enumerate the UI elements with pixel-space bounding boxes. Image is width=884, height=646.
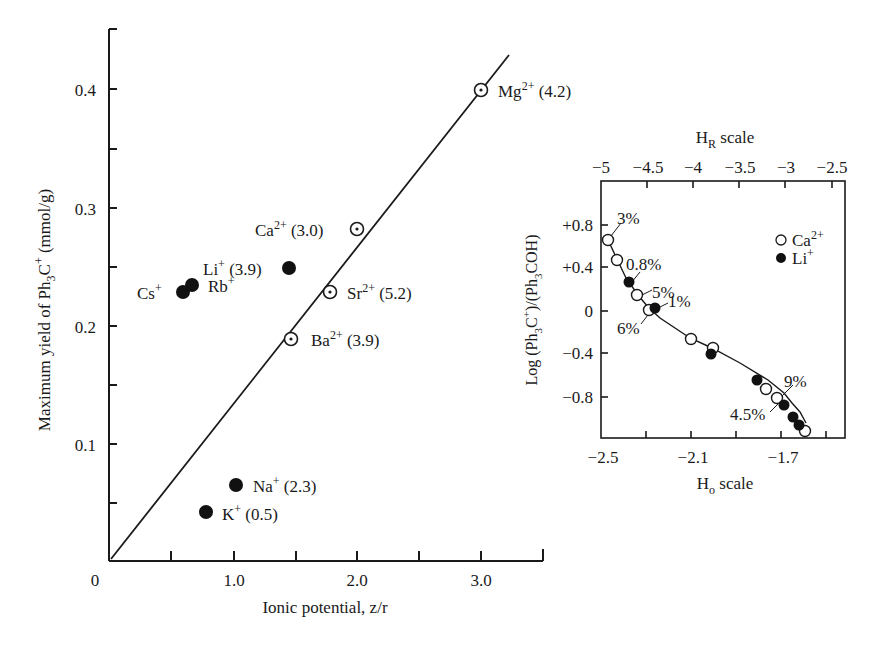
- point-ba: [285, 333, 298, 346]
- main-x-tick-label: 1.0: [223, 571, 244, 590]
- label-cs: Cs+: [137, 281, 162, 303]
- annotation-6pct: 6%: [617, 319, 640, 338]
- inset-y-tick-label: 0: [585, 302, 594, 321]
- inset-top-tick-label: −4: [684, 158, 703, 177]
- annotation-0-8pct: 0.8%: [626, 255, 661, 274]
- annotation-3pct: 3%: [617, 209, 640, 228]
- alkaline-earth-points: [285, 84, 488, 346]
- main-y-tick-label: 0.1: [75, 436, 96, 455]
- point-mg: [475, 84, 488, 97]
- inset-y-tick-label: −0.8: [562, 388, 593, 407]
- point-sr: [324, 286, 337, 299]
- label-ca: Ca2+ (3.0): [255, 218, 324, 240]
- inset-y-tick-label: +0.4: [562, 258, 593, 277]
- main-x-tick-label: 3.0: [470, 571, 491, 590]
- main-chart: 0.4 0.3 0.2 0.1 0 1.0 2.0 3.0 Ionic pote…: [32, 29, 571, 617]
- inset-bottom-tick-label: −2.5: [588, 448, 619, 467]
- inset-legend: Ca2+ Li+: [776, 228, 824, 268]
- inset-y-tick-label: −0.4: [562, 344, 593, 363]
- main-x-axis-title: Ionic potential, z/r: [262, 598, 387, 617]
- inset-y-axis-title: Log (Ph3C+)/(Ph3COH): [520, 235, 544, 386]
- label-mg: Mg2+ (4.2): [498, 79, 571, 101]
- label-li: Li+ (3.9): [203, 257, 262, 279]
- legend-ca-marker: [776, 235, 786, 245]
- inset-chart: −5 −4.5 −4 −3.5 −3 −2.5 HR scale −2.5 −2…: [520, 128, 847, 497]
- inset-bottom-axis-title: Ho scale: [697, 474, 754, 497]
- inset-top-ticks: [647, 181, 832, 188]
- inset-bottom-tick-label: −1.7: [768, 448, 799, 467]
- inset-top-tick-label: −4.5: [633, 158, 664, 177]
- inset-left-ticks: [601, 225, 608, 397]
- point-na: [229, 478, 243, 492]
- main-y-axis-title: Maximum yield of Ph3C+ (mmol/g): [32, 189, 58, 431]
- label-na: Na+ (2.3): [253, 474, 316, 496]
- inset-top-tick-label: −3.5: [725, 158, 756, 177]
- figure-canvas: 0.4 0.3 0.2 0.1 0 1.0 2.0 3.0 Ionic pote…: [0, 0, 884, 646]
- annotation-9pct: 9%: [784, 372, 807, 391]
- inset-li-points: [624, 277, 805, 431]
- main-y-tick-label: 0.2: [75, 318, 96, 337]
- legend-li-marker: [776, 253, 786, 263]
- main-x-tick-label: 0: [91, 571, 100, 590]
- inset-top-tick-label: −5: [592, 158, 610, 177]
- point-ca: [351, 223, 364, 236]
- inset-y-tick-label: +0.8: [562, 216, 593, 235]
- inset-bottom-tick-label: −2.1: [678, 448, 709, 467]
- main-x-ticks: [171, 549, 543, 561]
- main-y-tick-label: 0.3: [75, 200, 96, 219]
- legend-li-label: Li+: [792, 246, 814, 268]
- main-y-ticks: [109, 89, 117, 503]
- inset-top-tick-label: −3: [777, 158, 795, 177]
- point-k: [199, 505, 213, 519]
- label-k: K+ (0.5): [222, 502, 278, 524]
- annotation-1pct: 1%: [668, 292, 691, 311]
- annotation-4-5pct: 4.5%: [730, 405, 765, 424]
- main-y-tick-label: 0.4: [75, 81, 97, 100]
- main-x-tick-label: 2.0: [346, 571, 367, 590]
- inset-top-axis-title: HR scale: [696, 128, 755, 151]
- point-rb: [185, 278, 199, 292]
- label-sr: Sr2+ (5.2): [347, 281, 412, 303]
- point-li: [282, 261, 296, 275]
- inset-top-tick-label: −2.5: [817, 158, 848, 177]
- label-ba: Ba2+ (3.9): [311, 328, 380, 350]
